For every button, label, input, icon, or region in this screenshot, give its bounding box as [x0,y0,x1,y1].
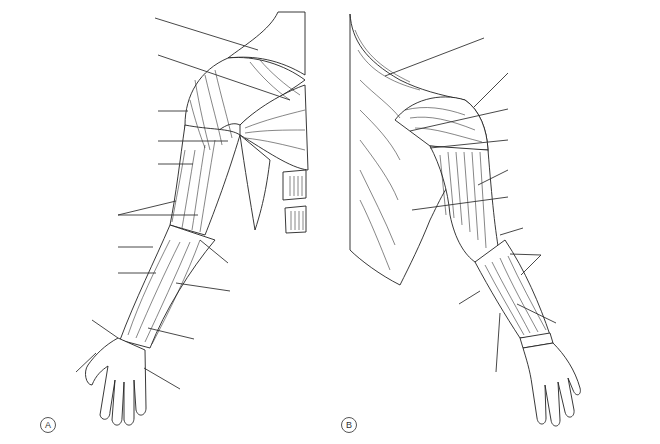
anatomy-figure: A B [0,0,660,444]
panel-label-b: B [341,417,357,433]
leader-line [496,313,500,372]
leader-line [92,320,118,338]
leader-line [385,38,484,76]
leader-line [144,368,180,389]
leader-line [155,18,258,50]
leader-line [474,73,508,107]
panel-a-drawing [85,12,308,425]
leader-line [500,228,523,235]
panel-b-drawing [350,14,580,426]
leader-line [459,291,480,304]
muscle-illustration [0,0,660,444]
leader-line [521,255,541,275]
panel-label-a: A [40,417,56,433]
leader-line [176,283,230,291]
leader-line [118,201,176,215]
